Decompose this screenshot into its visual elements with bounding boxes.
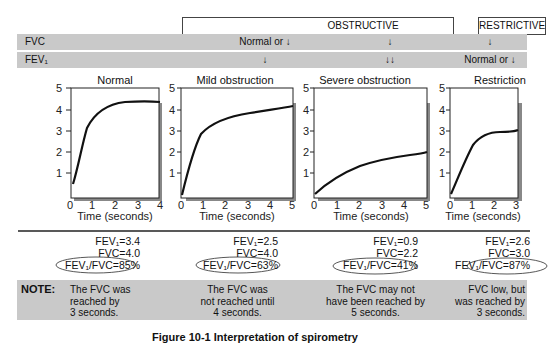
svg-text:1: 1 [303, 167, 309, 179]
svg-text:1: 1 [439, 167, 445, 179]
fvc-value: FVC=3.0 [430, 247, 530, 259]
svg-text:2: 2 [56, 146, 62, 158]
svg-text:4: 4 [157, 199, 163, 211]
fev1-value: FEV₁=2.6 [430, 235, 530, 247]
values-mild: FEV₁=2.5 FVC=4.0 FEV₁/FVC=63% [178, 235, 278, 271]
note-label: NOTE: [21, 284, 55, 296]
fev1-value: FEV₁=0.9 [318, 235, 418, 247]
figure-caption: Figure 10-1 Interpretation of spirometry [152, 331, 358, 343]
note-line: 5 seconds. [318, 307, 433, 319]
svg-text:3: 3 [56, 125, 62, 137]
fvc-value: FVC=4.0 [40, 247, 140, 259]
chart-mild-obstruction: 54321 012345 Time (seconds) [169, 82, 296, 222]
note-line: The FVC may not [318, 284, 433, 296]
note-line: 3 seconds. [70, 307, 160, 319]
svg-text:3: 3 [303, 125, 309, 137]
fev1-value: FEV₁=2.5 [178, 235, 278, 247]
note-line: was reached by [440, 296, 525, 308]
note-line: not reached until [185, 296, 290, 308]
svg-text:Time (seconds): Time (seconds) [445, 210, 520, 222]
fev1-value: FEV₁=3.4 [40, 235, 140, 247]
fvc-value: FVC=4.0 [178, 247, 278, 259]
svg-text:0: 0 [311, 199, 317, 211]
svg-text:4: 4 [303, 104, 309, 116]
fvc-value: FVC=2.2 [318, 247, 418, 259]
note-severe: The FVC may not have been reached by 5 s… [318, 284, 433, 319]
svg-text:3: 3 [169, 125, 175, 137]
svg-text:5: 5 [439, 82, 445, 94]
values-restriction: FEV₁=2.6 FVC=3.0 FEV₁/FVC=87% [430, 235, 530, 271]
svg-text:0: 0 [178, 199, 184, 211]
note-normal: The FVC was reached by 3 seconds. [70, 284, 160, 319]
chart-normal: 54321 01234 Time (seconds) [56, 82, 163, 222]
svg-text:0: 0 [67, 199, 73, 211]
ratio-value: FEV₁/FVC=41% [318, 259, 418, 271]
svg-text:2: 2 [439, 146, 445, 158]
note-mild: The FVC was not reached until 4 seconds. [185, 284, 290, 319]
svg-text:4: 4 [56, 104, 62, 116]
svg-text:2: 2 [303, 146, 309, 158]
values-severe: FEV₁=0.9 FVC=2.2 FEV₁/FVC=41% [318, 235, 418, 271]
svg-text:1: 1 [56, 167, 62, 179]
svg-text:2: 2 [169, 146, 175, 158]
svg-text:5: 5 [423, 199, 429, 211]
note-line: The FVC was [185, 284, 290, 296]
svg-text:5: 5 [289, 199, 295, 211]
chart-severe-obstruction: 54321 012345 Time (seconds) [303, 82, 430, 222]
svg-text:Time (seconds): Time (seconds) [199, 210, 274, 222]
note-line: FVC low, but [440, 284, 525, 296]
svg-text:1: 1 [169, 167, 175, 179]
note-line: The FVC was [70, 284, 160, 296]
note-line: reached by [70, 296, 160, 308]
note-line: have been reached by [318, 296, 433, 308]
svg-text:Time (seconds): Time (seconds) [77, 210, 152, 222]
note-restriction: FVC low, but was reached by 3 seconds. [440, 284, 525, 319]
ratio-value: FEV₁/FVC=85% [40, 259, 140, 271]
svg-text:4: 4 [439, 104, 445, 116]
svg-text:4: 4 [169, 104, 175, 116]
chart-restriction: 54321 0123 Time (seconds) [439, 82, 522, 222]
note-line: 3 seconds. [440, 307, 525, 319]
note-line: 4 seconds. [185, 307, 290, 319]
svg-text:5: 5 [56, 82, 62, 94]
svg-text:3: 3 [439, 125, 445, 137]
ratio-value: FEV₁/FVC=63% [178, 259, 278, 271]
svg-text:5: 5 [303, 82, 309, 94]
values-normal: FEV₁=3.4 FVC=4.0 FEV₁/FVC=85% [40, 235, 140, 271]
svg-text:5: 5 [169, 82, 175, 94]
ratio-value: FEV₁/FVC=87% [430, 259, 530, 271]
svg-text:Time (seconds): Time (seconds) [333, 210, 408, 222]
